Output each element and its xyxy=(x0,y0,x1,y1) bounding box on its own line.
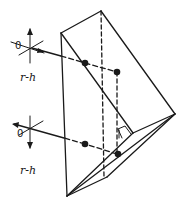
hidden-edge-dashed xyxy=(101,11,104,177)
bottom-zero-label: 0 xyxy=(17,128,23,139)
top-axis-label: r-h xyxy=(20,71,36,84)
prism-diagram xyxy=(0,0,185,209)
arrow-right-icon xyxy=(37,48,45,53)
prism-outline xyxy=(61,11,175,196)
top-zero-label: 0 xyxy=(15,40,21,51)
bottom-axis-label: r-h xyxy=(20,164,36,177)
arrow-down-icon xyxy=(27,142,33,149)
arrow-up-icon xyxy=(27,28,33,35)
